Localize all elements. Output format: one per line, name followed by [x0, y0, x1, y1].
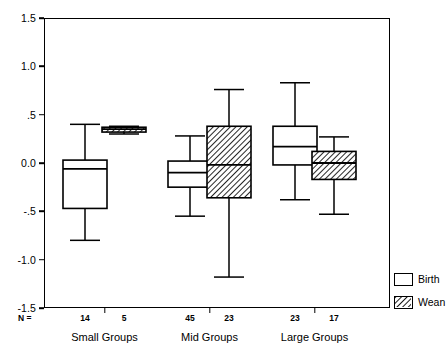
y-tick-mark: [39, 162, 44, 164]
legend-swatch-wean: [394, 296, 413, 309]
y-tick-label: -.5: [2, 205, 36, 217]
chart-canvas: 1.51.0.50.0-.5-1.0-1.5 N =14545232317Sma…: [0, 0, 448, 364]
x-group-label: Large Groups: [281, 331, 348, 343]
plot-area-frame: [44, 18, 390, 308]
n-value-label: 17: [329, 313, 338, 323]
y-tick-label: -1.0: [2, 254, 36, 266]
legend-item-wean: Wean: [394, 295, 445, 309]
legend: Birth Wean: [394, 272, 445, 318]
y-tick-mark: [39, 307, 44, 309]
legend-item-birth: Birth: [394, 272, 445, 286]
n-value-label: 5: [122, 313, 127, 323]
legend-label-wean: Wean: [418, 297, 445, 308]
y-tick-mark: [39, 17, 44, 19]
n-equals-label: N =: [18, 313, 31, 323]
legend-label-birth: Birth: [418, 274, 440, 285]
y-tick-mark: [39, 114, 44, 116]
y-tick-mark: [39, 66, 44, 68]
x-tick-mark: [209, 308, 210, 313]
x-group-label: Mid Groups: [181, 331, 238, 343]
x-group-label: Small Groups: [71, 331, 138, 343]
y-tick-mark: [39, 211, 44, 213]
y-tick-mark: [39, 259, 44, 261]
n-value-label: 23: [290, 313, 299, 323]
y-tick-label: 0.0: [2, 157, 36, 169]
n-value-label: 45: [185, 313, 194, 323]
y-tick-label: 1.5: [2, 12, 36, 24]
n-value-label: 14: [80, 313, 89, 323]
x-tick-mark: [104, 308, 105, 313]
x-tick-mark: [314, 308, 315, 313]
n-value-label: 23: [224, 313, 233, 323]
y-tick-label: .5: [2, 109, 36, 121]
legend-swatch-birth: [394, 273, 413, 286]
y-tick-label: 1.0: [2, 60, 36, 72]
